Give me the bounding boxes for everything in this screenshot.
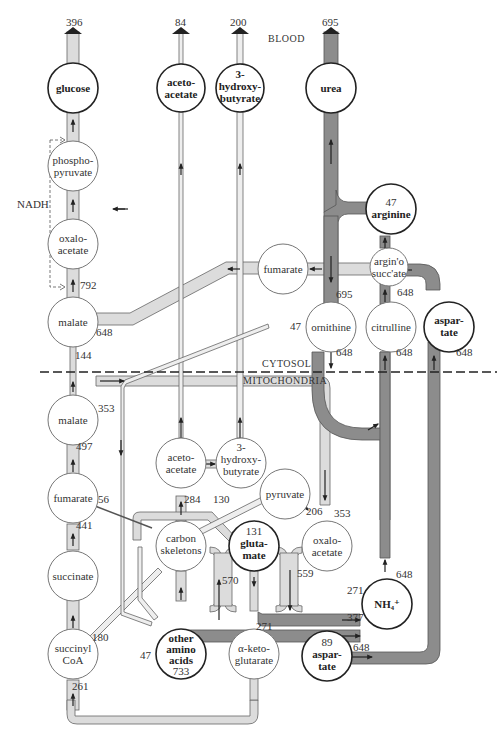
svg-text:131: 131 [246, 525, 263, 537]
node-malate-mito[interactable]: malate [48, 395, 98, 445]
node-glutamate[interactable]: 131 gluta- mate [229, 521, 279, 571]
svg-text:441: 441 [76, 519, 93, 531]
svg-text:citrulline: citrulline [371, 321, 411, 333]
svg-text:tate: tate [440, 326, 458, 338]
svg-text:497: 497 [76, 440, 93, 452]
svg-text:559: 559 [297, 567, 314, 579]
svg-text:pyruvate: pyruvate [266, 488, 305, 500]
svg-text:271: 271 [347, 584, 364, 596]
svg-text:glutarate: glutarate [235, 654, 274, 666]
region-cytosol: CYTOSOL [262, 358, 311, 369]
glucose-output-value: 396 [66, 16, 83, 28]
node-ornithine[interactable]: ornithine [306, 302, 356, 352]
svg-text:648: 648 [353, 641, 370, 653]
svg-text:144: 144 [75, 349, 92, 361]
svg-text:pyruvate: pyruvate [54, 166, 93, 178]
node-aspartate-mito[interactable]: 89 aspar- tate [302, 631, 352, 681]
hydroxybutyrate-output-value: 200 [230, 16, 247, 28]
svg-text:56: 56 [98, 493, 110, 505]
svg-text:succ'ate: succ'ate [372, 267, 406, 279]
svg-text:792: 792 [80, 279, 97, 291]
urea-output-value: 695 [322, 16, 339, 28]
node-argininosuccinate[interactable]: argin'o succ'ate [370, 248, 408, 286]
svg-text:353: 353 [98, 402, 115, 414]
urea-output-arrow-icon [322, 27, 340, 34]
svg-text:648: 648 [336, 346, 353, 358]
node-phosphopyruvate[interactable]: phospho- pyruvate [48, 141, 98, 191]
svg-text:gluta-: gluta- [240, 537, 268, 549]
svg-text:89: 89 [322, 636, 334, 648]
svg-text:glucose: glucose [56, 82, 90, 94]
svg-text:648: 648 [397, 286, 414, 298]
node-acetoacetate-mito[interactable]: aceto- acetate [156, 438, 206, 488]
node-fumarate-mito[interactable]: fumarate [48, 473, 98, 523]
node-aspartate-cytosol[interactable]: aspar- tate [424, 302, 474, 352]
region-mitochondria: MITOCHONDRIA [243, 375, 327, 386]
svg-text:CoA: CoA [63, 654, 84, 666]
svg-text:648: 648 [396, 346, 413, 358]
svg-text:fumarate: fumarate [53, 492, 92, 504]
svg-text:malate: malate [58, 316, 87, 328]
svg-text:butyrate: butyrate [223, 465, 259, 477]
svg-text:284: 284 [184, 493, 201, 505]
glucose-output-arrow-icon [64, 27, 82, 34]
node-other-amino-acids[interactable]: other amino acids 733 [156, 629, 206, 679]
svg-text:arginine: arginine [371, 208, 410, 220]
svg-text:succinyl: succinyl [55, 642, 92, 654]
svg-text:47: 47 [386, 196, 398, 208]
node-succinate[interactable]: succinate [48, 551, 98, 601]
svg-text:206: 206 [306, 505, 323, 517]
svg-text:733: 733 [173, 665, 190, 677]
svg-text:NH₄⁺: NH₄⁺ [374, 598, 400, 610]
node-pyruvate[interactable]: pyruvate [260, 469, 310, 519]
svg-text:fumarate: fumarate [263, 263, 302, 275]
node-acetoacetate-blood[interactable]: aceto- acetate [157, 64, 205, 112]
node-urea[interactable]: urea [306, 63, 356, 113]
node-hydroxybutyrate-mito[interactable]: 3- hydroxy- butyrate [216, 438, 266, 488]
svg-text:malate: malate [58, 414, 87, 426]
svg-text:carbon: carbon [166, 532, 196, 544]
svg-text:aspar-: aspar- [312, 648, 342, 660]
svg-text:271: 271 [256, 620, 273, 632]
svg-text:353: 353 [334, 507, 351, 519]
svg-text:acetate: acetate [58, 244, 89, 256]
svg-text:skeletons: skeletons [161, 544, 202, 556]
svg-text:oxalo-: oxalo- [59, 232, 87, 244]
svg-text:acetate: acetate [312, 546, 343, 558]
region-blood: BLOOD [268, 33, 305, 44]
node-alpha-ketoglutarate[interactable]: α-keto- glutarate [229, 629, 279, 679]
node-arginine[interactable]: 47 arginine [366, 184, 416, 234]
acetoacetate-output-value: 84 [175, 16, 187, 28]
nadh-label: NADH [17, 198, 49, 210]
node-oxaloacetate-mito[interactable]: oxalo- acetate [302, 521, 352, 571]
acetoacetate-output-arrow-icon [172, 27, 190, 34]
svg-text:argin'o: argin'o [374, 255, 404, 267]
svg-text:aceto-: aceto- [168, 451, 195, 463]
svg-text:tate: tate [318, 660, 336, 672]
metabolic-flux-diagram: glucose aceto- acetate 3- hydroxy- butyr… [0, 0, 497, 735]
svg-text:oxalo-: oxalo- [313, 534, 341, 546]
node-malate-cytosol[interactable]: malate [48, 297, 98, 347]
node-carbon-skeletons[interactable]: carbon skeletons [156, 521, 206, 571]
node-glucose[interactable]: glucose [48, 63, 98, 113]
svg-text:47: 47 [290, 320, 302, 332]
node-citrulline[interactable]: citrulline [366, 302, 416, 352]
svg-text:acetate: acetate [165, 88, 198, 100]
svg-text:α-keto-: α-keto- [238, 642, 270, 654]
svg-text:695: 695 [336, 288, 353, 300]
svg-text:648: 648 [396, 568, 413, 580]
svg-text:130: 130 [213, 493, 230, 505]
node-oxaloacetate-cytosol[interactable]: oxalo- acetate [48, 219, 98, 269]
node-hydroxybutyrate-blood[interactable]: 3- hydroxy- butyrate [216, 64, 264, 112]
svg-text:butyrate: butyrate [220, 92, 260, 104]
hydroxybutyrate-output-arrow-icon [231, 27, 249, 34]
svg-text:acetate: acetate [166, 463, 197, 475]
svg-text:mate: mate [242, 549, 265, 561]
svg-text:aceto-: aceto- [167, 76, 195, 88]
node-ammonium[interactable]: NH₄⁺ [362, 579, 412, 629]
node-succinyl-coa[interactable]: succinyl CoA [48, 629, 98, 679]
svg-text:570: 570 [222, 574, 239, 586]
svg-text:hydroxy-: hydroxy- [219, 80, 262, 92]
node-fumarate-cytosol[interactable]: fumarate [258, 244, 308, 294]
svg-text:hydroxy-: hydroxy- [221, 453, 262, 465]
